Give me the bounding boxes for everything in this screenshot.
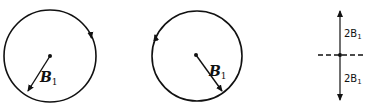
rotation-arrow-icon <box>91 33 92 38</box>
lower-label: 2B1 <box>344 73 362 86</box>
rotation-arrow-icon <box>155 35 156 40</box>
field-diagram: B1 B1 2B1 2B1 <box>0 0 365 108</box>
vector-label: B1 <box>39 69 58 87</box>
upper-label: 2B1 <box>344 28 362 41</box>
circle-right-panel: B1 <box>152 11 242 101</box>
circle-left-panel: B1 <box>4 10 96 102</box>
center-dot <box>338 53 342 57</box>
vector-label: B1 <box>208 63 227 81</box>
linear-panel: 2B1 2B1 <box>318 11 363 100</box>
